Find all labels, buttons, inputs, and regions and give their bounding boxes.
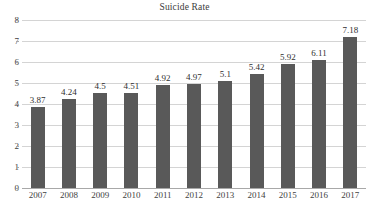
bar[interactable]: [312, 60, 326, 188]
bar-value-label: 4.5: [95, 82, 106, 91]
bar-value-label: 5.42: [249, 63, 265, 72]
bar-value-label: 5.92: [280, 53, 296, 62]
bar-value-label: 4.97: [186, 73, 202, 82]
plot-area: 3.874.244.54.514.924.975.15.425.926.117.…: [22, 20, 366, 188]
bar-group: 5.1: [210, 20, 241, 188]
bar[interactable]: [187, 84, 201, 188]
y-axis-tick-mark: [16, 146, 19, 147]
bar-group: 3.87: [22, 20, 53, 188]
x-axis-tick-label: 2012: [178, 190, 209, 201]
y-axis-tick-mark: [16, 62, 19, 63]
x-axis-tick-label: 2016: [303, 190, 334, 201]
bar[interactable]: [124, 93, 138, 188]
bar-value-label: 4.51: [124, 82, 140, 91]
x-axis-tick-label: 2007: [22, 190, 53, 201]
x-axis-tick-label: 2017: [335, 190, 366, 201]
bar-group: 5.42: [241, 20, 272, 188]
bar-group: 4.5: [85, 20, 116, 188]
y-axis-tick-mark: [16, 167, 19, 168]
bar-value-label: 4.92: [155, 74, 171, 83]
x-axis-tick-label: 2009: [85, 190, 116, 201]
chart-title: Suicide Rate: [0, 2, 369, 12]
bar-group: 4.92: [147, 20, 178, 188]
bar-group: 7.18: [335, 20, 366, 188]
x-axis-tick-label: 2011: [147, 190, 178, 201]
bar-value-label: 5.1: [220, 70, 231, 79]
x-axis-tick-label: 2013: [210, 190, 241, 201]
bar[interactable]: [93, 93, 107, 188]
x-axis-tick-label: 2014: [241, 190, 272, 201]
bar-group: 4.97: [178, 20, 209, 188]
y-axis: 876543210: [0, 20, 19, 188]
x-axis: 2007200820092010201120122013201420152016…: [22, 190, 366, 206]
y-axis-tick-mark: [16, 20, 19, 21]
bar-value-label: 6.11: [311, 49, 326, 58]
y-axis-tick-mark: [16, 188, 19, 189]
bar[interactable]: [156, 85, 170, 188]
bar[interactable]: [343, 37, 357, 188]
bar[interactable]: [31, 107, 45, 188]
bar[interactable]: [218, 81, 232, 188]
bar-group: 4.24: [53, 20, 84, 188]
bar-chart: Suicide Rate 876543210 3.874.244.54.514.…: [0, 0, 369, 216]
bar-group: 4.51: [116, 20, 147, 188]
x-axis-tick-label: 2010: [116, 190, 147, 201]
axis-baseline: [22, 188, 366, 189]
x-axis-tick-label: 2008: [53, 190, 84, 201]
y-axis-tick-mark: [16, 104, 19, 105]
bar[interactable]: [250, 74, 264, 188]
bar-group: 6.11: [303, 20, 334, 188]
y-axis-tick-mark: [16, 83, 19, 84]
bar-value-label: 7.18: [342, 26, 358, 35]
bar-value-label: 4.24: [61, 88, 77, 97]
y-axis-tick-mark: [16, 125, 19, 126]
y-axis-tick-mark: [16, 41, 19, 42]
bar[interactable]: [281, 64, 295, 188]
bar-group: 5.92: [272, 20, 303, 188]
bar-value-label: 3.87: [30, 96, 46, 105]
bar[interactable]: [62, 99, 76, 188]
x-axis-tick-label: 2015: [272, 190, 303, 201]
